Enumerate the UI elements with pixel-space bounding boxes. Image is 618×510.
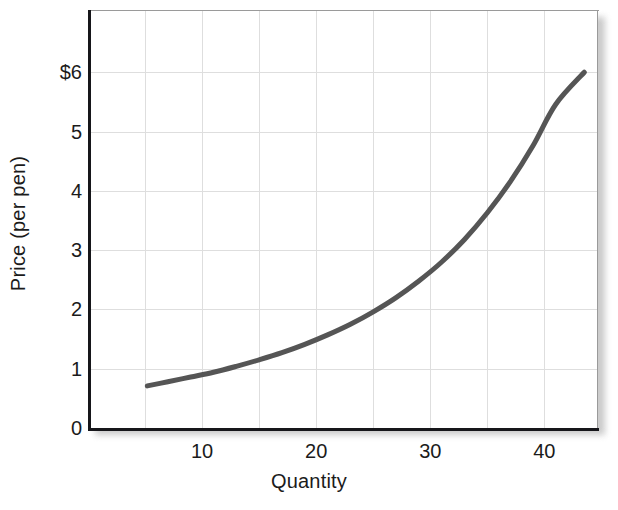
x-axis-line [88, 428, 599, 431]
y-axis-tick-label: 3 [38, 240, 82, 260]
x-axis-title: Quantity [0, 470, 618, 493]
gridline-vertical [430, 11, 431, 428]
x-axis-tick-label: 30 [400, 441, 460, 461]
y-axis-tick-label: 4 [38, 181, 82, 201]
x-axis-tick-label: 40 [514, 441, 574, 461]
gridline-vertical [316, 11, 317, 428]
gridline-vertical [259, 11, 260, 428]
x-axis-tick-label: 10 [172, 441, 232, 461]
y-axis-tick-label: 1 [38, 359, 82, 379]
y-axis-tick-label: $6 [38, 62, 82, 82]
y-axis-tick-label: 0 [38, 418, 82, 438]
gridline-horizontal [89, 369, 598, 370]
y-axis-tick-labels: $6543210 [24, 0, 82, 440]
chart-figure: $6543210 10203040 Quantity Price (per pe… [0, 0, 618, 510]
y-axis-tick-label: 2 [38, 299, 82, 319]
gridline-vertical [487, 11, 488, 428]
y-axis-line [88, 10, 91, 431]
gridline-horizontal [89, 250, 598, 251]
gridline-horizontal [89, 191, 598, 192]
gridline-vertical [544, 11, 545, 428]
gridline-horizontal [89, 132, 598, 133]
plot-frame-right [597, 10, 598, 429]
gridline-vertical [202, 11, 203, 428]
x-axis-tick-label: 20 [286, 441, 346, 461]
y-axis-title: Price (per pen) [7, 114, 30, 334]
gridline-horizontal [89, 72, 598, 73]
gridline-vertical [373, 11, 374, 428]
plot-frame-top [88, 10, 599, 11]
y-axis-tick-label: 5 [38, 122, 82, 142]
gridline-vertical [145, 11, 146, 428]
gridline-horizontal [89, 309, 598, 310]
